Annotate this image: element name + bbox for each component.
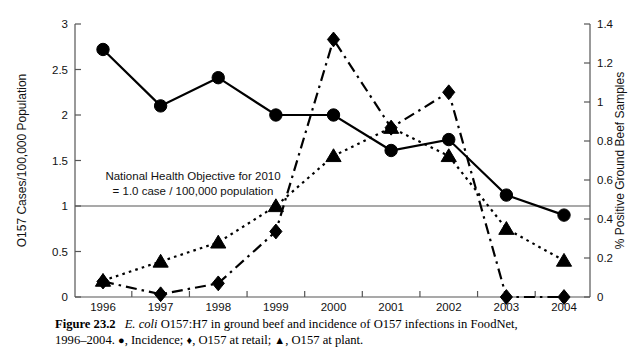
data-point-2000 bbox=[326, 149, 341, 162]
figure-label: Figure 23.2 bbox=[55, 317, 116, 331]
chart-plot-area: 19961997199819992000200120022003200400.5… bbox=[0, 0, 637, 316]
y-tick-label-left-1: 1 bbox=[62, 200, 68, 212]
y-tick-label-right-0: 0 bbox=[597, 291, 603, 303]
y-tick-label-left-2: 2 bbox=[62, 109, 68, 121]
data-point-1998 bbox=[211, 235, 226, 248]
series-o157-at-plant bbox=[95, 121, 571, 287]
data-point-2000 bbox=[327, 109, 339, 121]
data-point-2004 bbox=[558, 209, 570, 221]
y-axis-right-title: % Positive Ground Beef Samples bbox=[613, 72, 627, 249]
series-o157-at-retail bbox=[97, 32, 570, 304]
y-tick-label-right-1: 1 bbox=[597, 96, 603, 108]
annotation-line-2: = 1.0 case / 100,000 population bbox=[113, 185, 274, 197]
legend-glyph-plant: ▲ bbox=[274, 334, 285, 346]
data-point-1999 bbox=[270, 109, 282, 121]
data-point-2001 bbox=[385, 144, 397, 156]
legend-text-incidence: , Incidence; bbox=[125, 333, 187, 347]
data-point-1999 bbox=[268, 199, 283, 212]
y-tick-label-left-0.5: 0.5 bbox=[52, 246, 68, 258]
annotation-group: National Health Objective for 2010= 1.0 … bbox=[105, 170, 280, 197]
y-tick-label-right-1.2: 1.2 bbox=[597, 57, 613, 69]
axes-group: 19961997199819992000200120022003200400.5… bbox=[15, 18, 627, 313]
data-point-1996 bbox=[95, 273, 110, 286]
y-tick-label-right-0.4: 0.4 bbox=[597, 213, 614, 225]
data-point-2004 bbox=[556, 253, 571, 266]
figure-caption: Figure 23.2E. coli O157:H7 in ground bee… bbox=[55, 316, 585, 348]
data-point-1997 bbox=[154, 100, 166, 112]
figure-container: 19961997199819992000200120022003200400.5… bbox=[0, 0, 637, 354]
y-tick-label-left-0: 0 bbox=[62, 291, 68, 303]
series-group bbox=[95, 32, 571, 304]
data-point-2002 bbox=[441, 149, 456, 162]
y-tick-label-right-1.4: 1.4 bbox=[597, 18, 614, 30]
figure-title-italic: E. coli bbox=[125, 317, 158, 331]
x-tick-label-1996: 1996 bbox=[90, 301, 116, 313]
x-tick-label-2002: 2002 bbox=[436, 301, 462, 313]
y-axis-left-title: O157 Cases/100,000 Population bbox=[15, 74, 29, 247]
y-tick-label-left-2.5: 2.5 bbox=[52, 64, 68, 76]
figure-title-rest: O157:H7 in ground beef and incidence of … bbox=[158, 317, 518, 331]
chart-svg: 19961997199819992000200120022003200400.5… bbox=[0, 0, 637, 316]
x-tick-label-2001: 2001 bbox=[378, 301, 404, 313]
legend-text-plant: , O157 at plant. bbox=[285, 333, 363, 347]
y-tick-label-right-0.2: 0.2 bbox=[597, 252, 613, 264]
data-point-2002 bbox=[443, 133, 455, 145]
x-tick-label-1997: 1997 bbox=[148, 301, 174, 313]
data-point-2003 bbox=[500, 189, 512, 201]
legend-text-retail: , O157 at retail; bbox=[192, 333, 274, 347]
x-tick-label-2000: 2000 bbox=[321, 301, 347, 313]
annotation-line-1: National Health Objective for 2010 bbox=[105, 170, 280, 182]
y-tick-label-left-3: 3 bbox=[62, 18, 68, 30]
x-tick-label-1998: 1998 bbox=[205, 301, 231, 313]
data-point-1997 bbox=[153, 254, 168, 267]
x-tick-label-1999: 1999 bbox=[263, 301, 289, 313]
data-point-2002 bbox=[443, 85, 455, 100]
y-tick-label-right-0.6: 0.6 bbox=[597, 174, 613, 186]
data-point-1998 bbox=[212, 71, 224, 83]
data-point-1996 bbox=[97, 43, 109, 55]
series-line bbox=[103, 39, 564, 297]
data-point-1997 bbox=[155, 287, 167, 302]
y-tick-label-right-0.8: 0.8 bbox=[597, 135, 613, 147]
legend-glyph-incidence: ● bbox=[118, 334, 125, 346]
figure-years: 1996–2004. bbox=[55, 333, 118, 347]
data-point-2003 bbox=[499, 222, 514, 235]
y-tick-label-left-1.5: 1.5 bbox=[52, 155, 68, 167]
